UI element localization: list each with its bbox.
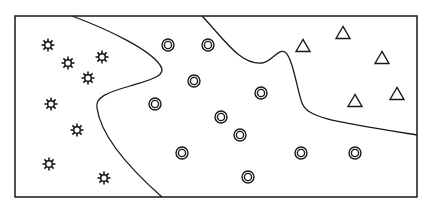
star-marker-icon — [96, 51, 109, 64]
star-marker-icon — [62, 57, 75, 70]
star-marker-icon — [71, 124, 84, 137]
star-marker-icon — [82, 72, 95, 85]
star-marker-icon — [43, 158, 56, 171]
star-marker-icon — [45, 98, 58, 111]
classification-diagram — [0, 0, 429, 221]
star-marker-icon — [42, 39, 55, 52]
star-marker-icon — [98, 172, 111, 185]
background — [0, 0, 429, 221]
